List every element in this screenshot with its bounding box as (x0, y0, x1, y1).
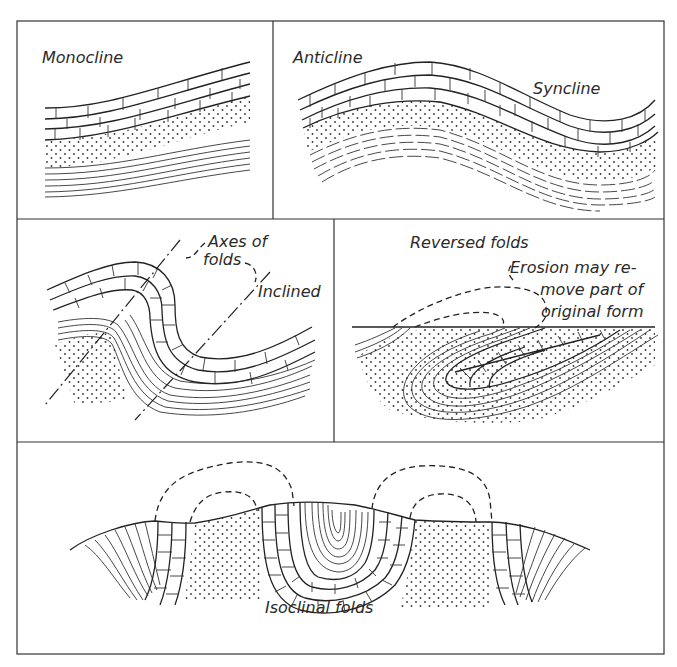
axes-pointer-arrow (245, 263, 256, 282)
limestone-layer (262, 502, 415, 613)
anticline-label: Anticline (292, 48, 363, 67)
shale-layer (305, 502, 368, 572)
reversed-folds-label: Reversed folds (410, 233, 529, 252)
panel-reversed: Reversed folds Erosion may re- move part… (352, 233, 658, 423)
syncline-label: Syncline (533, 79, 601, 98)
limestone-layer (145, 521, 186, 605)
sandstone-layer (185, 507, 262, 600)
erosion-label-line3: original form (541, 302, 643, 321)
limestone-layer (492, 522, 532, 605)
eroded-outline (415, 312, 504, 327)
sandstone-layer (303, 101, 658, 181)
erosion-label-line1: Erosion may re- (510, 258, 637, 277)
shale-layer (85, 522, 160, 600)
inclined-label: Inclined (258, 282, 322, 301)
panel-anticline-syncline: Anticline Syncline (292, 48, 658, 211)
eroded-outline (393, 287, 546, 328)
panel-monocline: Monocline (42, 48, 250, 197)
panel-isoclinal: Isoclinal folds (70, 462, 590, 617)
axes-label-line2: folds (203, 250, 241, 269)
erosion-label-line2: move part of (540, 280, 645, 299)
axes-label-line1: Axes of (207, 232, 269, 251)
sandstone-layer (55, 333, 130, 405)
shale-layer (516, 527, 585, 602)
geologic-folds-figure: Monocline Anticline Syncline (0, 0, 677, 667)
monocline-label: Monocline (42, 48, 123, 67)
panel-inclined: Axes of folds Inclined (45, 232, 322, 420)
